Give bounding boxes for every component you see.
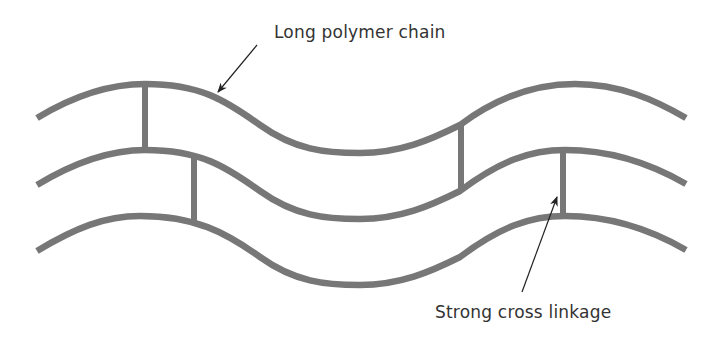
arrow-to-chain [218,45,257,92]
label-strong-cross-linkage: Strong cross linkage [435,302,611,322]
label-long-polymer-chain: Long polymer chain [274,22,446,42]
polymer-chain-bottom [37,216,686,285]
polymer-diagram [0,0,718,344]
polymer-chain-middle [37,150,686,219]
arrow-to-cross-link [522,197,557,292]
polymer-chain-top [37,84,686,153]
